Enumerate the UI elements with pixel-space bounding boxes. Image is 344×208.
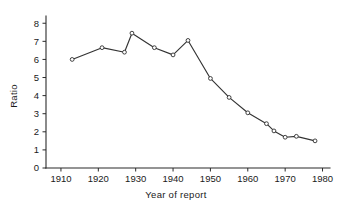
series-line-ratio [72, 33, 315, 141]
x-tick-label: 1980 [312, 173, 333, 184]
y-tick-label: 3 [34, 108, 39, 119]
y-axis: 012345678 [34, 16, 46, 173]
data-point-marker [100, 46, 104, 50]
x-tick-label: 1920 [88, 173, 109, 184]
data-point-marker [209, 77, 213, 81]
data-series-ratio [70, 31, 317, 142]
data-point-marker [171, 53, 175, 57]
x-axis: 19101920193019401950196019701980 [46, 168, 333, 184]
data-point-marker [272, 129, 276, 133]
data-point-marker [313, 139, 317, 143]
data-point-marker [227, 96, 231, 100]
x-tick-label: 1910 [50, 173, 71, 184]
y-tick-label: 6 [34, 54, 39, 65]
data-point-marker [70, 58, 74, 62]
y-tick-label: 8 [34, 18, 39, 29]
chart-figure: 012345678 191019201930194019501960197019… [0, 0, 344, 208]
y-tick-label: 5 [34, 72, 39, 83]
data-point-marker [123, 50, 127, 54]
y-tick-label: 0 [34, 162, 39, 173]
y-tick-label: 4 [34, 90, 39, 101]
y-tick-label: 1 [34, 144, 39, 155]
data-point-marker [246, 111, 250, 115]
data-point-marker [152, 46, 156, 50]
y-axis-title: Ratio [8, 84, 19, 108]
x-axis-title: Year of report [145, 189, 206, 200]
x-tick-label: 1930 [125, 173, 146, 184]
data-point-marker [265, 122, 269, 126]
chart-canvas: 012345678 191019201930194019501960197019… [0, 0, 344, 208]
y-tick-label: 2 [34, 126, 39, 137]
x-tick-label: 1950 [200, 173, 221, 184]
x-tick-label: 1970 [275, 173, 296, 184]
data-point-marker [130, 31, 134, 35]
data-point-marker [294, 134, 298, 138]
data-point-marker [186, 39, 190, 43]
x-tick-label: 1940 [162, 173, 183, 184]
data-point-marker [283, 135, 287, 139]
x-tick-label: 1960 [237, 173, 258, 184]
y-tick-label: 7 [34, 36, 39, 47]
